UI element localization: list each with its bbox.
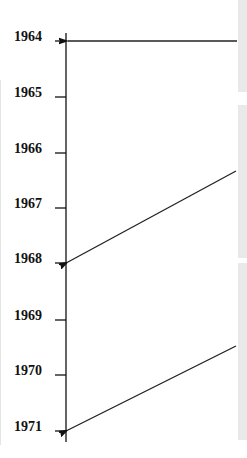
year-label-1969: 1969 (14, 308, 50, 324)
timeline-diagram (0, 0, 247, 458)
year-label-1971: 1971 (14, 419, 50, 435)
year-label-1967: 1967 (14, 196, 50, 212)
arrows (68, 41, 237, 430)
arrow-1968 (68, 171, 236, 262)
year-label-1965: 1965 (14, 85, 50, 101)
year-label-1968: 1968 (14, 251, 50, 267)
year-label-1970: 1970 (14, 363, 50, 379)
year-label-1966: 1966 (14, 141, 50, 157)
year-label-1964: 1964 (14, 29, 50, 45)
tick-marks (55, 41, 66, 431)
arrow-1971 (68, 346, 236, 430)
